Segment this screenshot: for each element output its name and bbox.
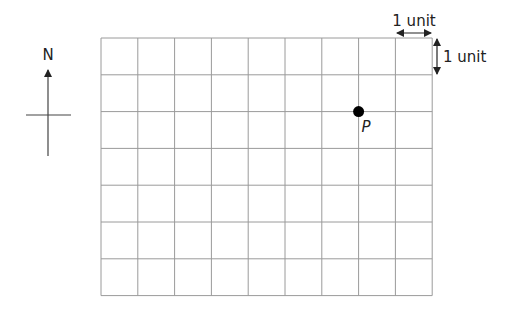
- vertical-scale-label: 1 unit: [443, 48, 486, 66]
- point-p-marker: [353, 106, 364, 117]
- north-label: N: [42, 46, 53, 64]
- points-layer: P: [353, 106, 372, 136]
- scale-horizontal: 1 unit: [392, 12, 435, 33]
- grid-diagram: N 1 unit 1 unit P: [0, 0, 505, 317]
- north-compass: N: [26, 46, 71, 156]
- square-grid: [101, 38, 432, 296]
- horizontal-scale-label: 1 unit: [392, 12, 435, 30]
- scale-vertical: 1 unit: [437, 39, 486, 74]
- point-p-label: P: [362, 118, 372, 136]
